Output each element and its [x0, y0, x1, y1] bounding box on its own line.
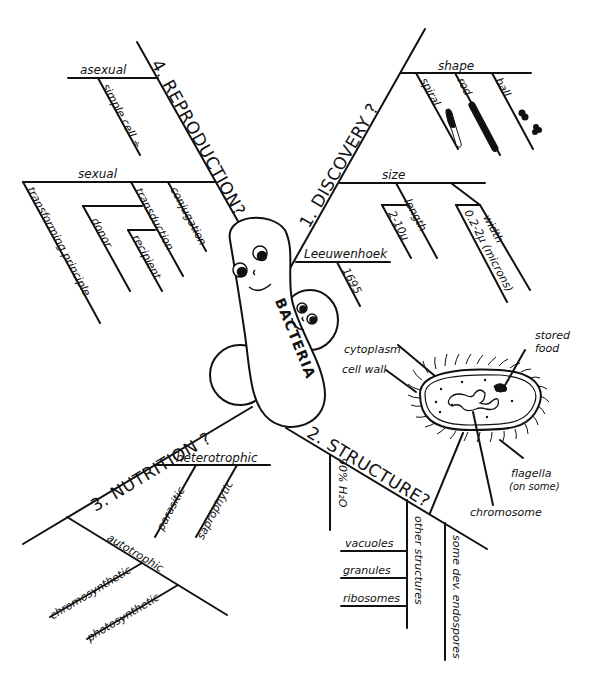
label-shape: shape	[438, 60, 474, 72]
label-size: size	[382, 169, 405, 181]
bacterium-cell-diagram	[408, 354, 549, 442]
flagella-hairs	[408, 354, 549, 442]
label-endospores: some dev. endospores	[451, 535, 462, 659]
label-leeuwenhoek: Leeuwenhoek	[304, 248, 387, 260]
label-flagella-note: (on some)	[509, 482, 560, 492]
label-water: 90% H₂O	[337, 458, 348, 507]
label-vacuoles: vacuoles	[345, 538, 394, 549]
label-flagella: flagella	[511, 468, 551, 479]
label-heterotrophic: heterotrophic	[176, 452, 258, 464]
shape-icons	[446, 100, 542, 153]
label-cytoplasm: cytoplasm	[344, 344, 401, 355]
label-cell-wall: cell wall	[342, 364, 386, 375]
label-granules: granules	[343, 565, 391, 576]
label-stored-food: stored food	[535, 329, 595, 355]
label-other-structures: other structures	[413, 516, 424, 605]
label-chromosome: chromosome	[470, 507, 542, 518]
label-ribosomes: ribosomes	[343, 593, 400, 604]
label-asexual: asexual	[80, 64, 126, 76]
label-sexual: sexual	[78, 168, 117, 180]
